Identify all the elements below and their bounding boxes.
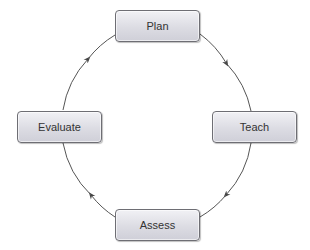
node-assess-label: Assess bbox=[140, 219, 175, 231]
edge-assess-to-evaluate bbox=[63, 143, 115, 217]
node-teach-label: Teach bbox=[240, 121, 269, 133]
node-assess: Assess bbox=[115, 209, 200, 241]
node-teach: Teach bbox=[212, 111, 297, 143]
node-plan-label: Plan bbox=[146, 20, 168, 32]
node-evaluate-label: Evaluate bbox=[38, 121, 81, 133]
edge-evaluate-to-plan bbox=[63, 35, 115, 110]
node-plan: Plan bbox=[115, 10, 200, 42]
node-evaluate: Evaluate bbox=[17, 111, 102, 143]
edge-plan-to-teach bbox=[200, 34, 251, 111]
edge-teach-to-assess bbox=[200, 143, 251, 217]
